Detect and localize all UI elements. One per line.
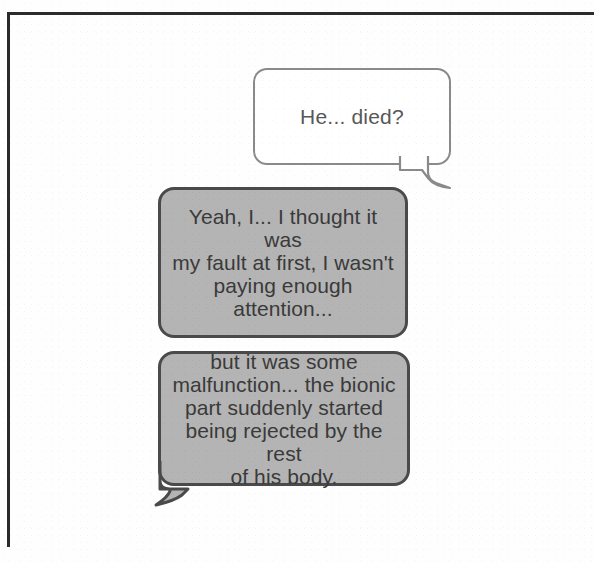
speech-balloon-3-text: but it was some malfunction... the bioni… [161,350,407,488]
speech-balloon-2-text: Yeah, I... I thought it was my fault at … [161,205,405,320]
speech-balloon-1-text: He... died? [255,104,449,130]
panel-frame-left-border [7,12,10,547]
speech-balloon-2: Yeah, I... I thought it was my fault at … [158,187,408,338]
panel-frame-top-border [7,12,594,15]
speech-balloon-1: He... died? [253,68,451,165]
comic-panel: He... died? Yeah, I... I thought it was … [0,0,594,563]
speech-balloon-3: but it was some malfunction... the bioni… [158,351,410,486]
